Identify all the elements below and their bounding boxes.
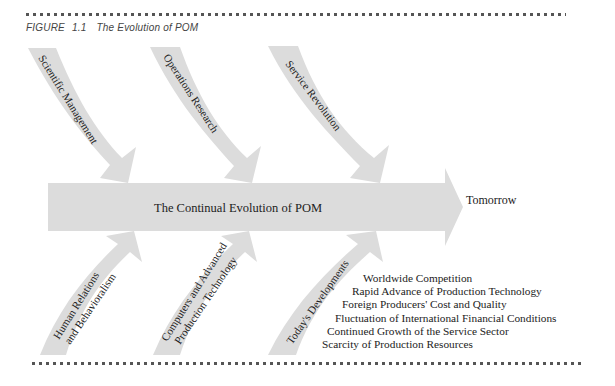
main-arrow-label: The Continual Evolution of POM (154, 201, 322, 215)
top-arrow-label-1: Scientific Management (36, 53, 100, 146)
todays-developments-list: Worldwide Competition Rapid Advance of P… (306, 272, 557, 351)
list-item: Foreign Producers' Cost and Quality (342, 298, 557, 311)
top-arrow-label-2: Operations Research (161, 52, 221, 136)
top-arrow-label-3: Service Revolution (283, 58, 344, 133)
list-item: Worldwide Competition (363, 272, 557, 285)
bottom-dotted-rule (32, 362, 582, 365)
destination-label: Tomorrow (466, 193, 516, 208)
list-item: Fluctuation of International Financial C… (335, 312, 557, 325)
list-item: Rapid Advance of Production Technology (352, 285, 557, 298)
list-item: Continued Growth of the Service Sector (327, 325, 557, 338)
list-item: Scarcity of Production Resources (322, 338, 557, 351)
